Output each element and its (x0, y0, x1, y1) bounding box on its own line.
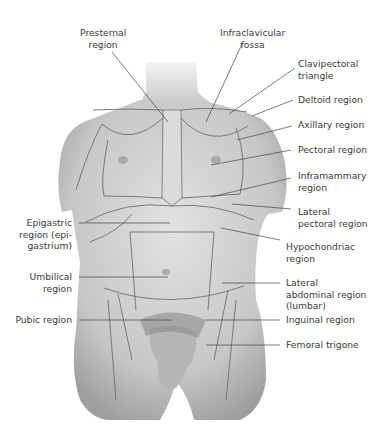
label-pectoral-region: Pectoral region (298, 144, 367, 156)
label-femoral-trigone: Femoral trigone (286, 339, 359, 351)
label-clavipectoral-triangle: Clavipectoral triangle (298, 58, 358, 81)
label-hypochondriac-region: Hypochondriac region (286, 241, 355, 264)
label-infraclavicular-fossa: Infraclavicular fossa (220, 27, 285, 50)
label-umbilical-region: Umbilical region (30, 271, 72, 294)
label-axillary-region: Axillary region (298, 119, 364, 131)
label-lateral-pectoral-region: Lateral pectoral region (298, 206, 368, 229)
label-epigastric-region: Epigastric region (epi- gastrium) (19, 217, 72, 252)
label-inframammary-region: Inframammary region (298, 170, 367, 193)
label-lateral-abdominal-region: Lateral abdominal region (lumbar) (286, 277, 366, 312)
label-deltoid-region: Deltoid region (298, 94, 363, 106)
label-inguinal-region: Inguinal region (286, 314, 355, 326)
label-presternal-region: Presternal region (80, 27, 126, 50)
label-pubic-region: Pubic region (15, 314, 72, 326)
